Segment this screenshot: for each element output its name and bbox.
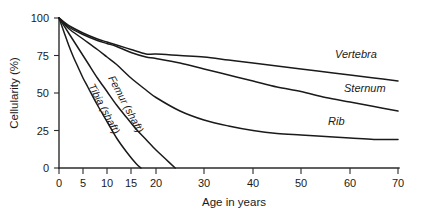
curve-sternum	[59, 18, 398, 111]
cellularity-chart: 100 75 50 25 0 0 5 10 15 20 30 40 50 60 …	[0, 0, 421, 217]
x-tick-label-60: 60	[344, 177, 356, 189]
y-tick-label-25: 25	[37, 125, 49, 137]
y-tick-label-100: 100	[31, 12, 49, 24]
y-tick-label-0: 0	[43, 162, 49, 174]
y-tick-label-50: 50	[37, 87, 49, 99]
series-label-rib: Rib	[328, 115, 345, 127]
y-axis-ticks	[54, 18, 59, 168]
x-tick-label-20: 20	[150, 177, 162, 189]
y-axis-title: Cellularity (%)	[8, 57, 20, 129]
x-tick-label-40: 40	[247, 177, 259, 189]
x-tick-label-5: 5	[80, 177, 86, 189]
series-label-vertebra: Vertebra	[335, 48, 377, 60]
x-tick-label-70: 70	[392, 177, 404, 189]
x-axis-ticks	[59, 168, 398, 174]
y-tick-label-75: 75	[37, 50, 49, 62]
series-label-sternum: Sternum	[344, 82, 386, 94]
x-tick-label-10: 10	[101, 177, 113, 189]
x-axis-title: Age in years	[202, 196, 266, 208]
chart-canvas: 100 75 50 25 0 0 5 10 15 20 30 40 50 60 …	[0, 0, 421, 217]
x-tick-label-15: 15	[125, 177, 137, 189]
x-tick-label-30: 30	[198, 177, 210, 189]
x-tick-label-50: 50	[295, 177, 307, 189]
x-tick-label-0: 0	[56, 177, 62, 189]
